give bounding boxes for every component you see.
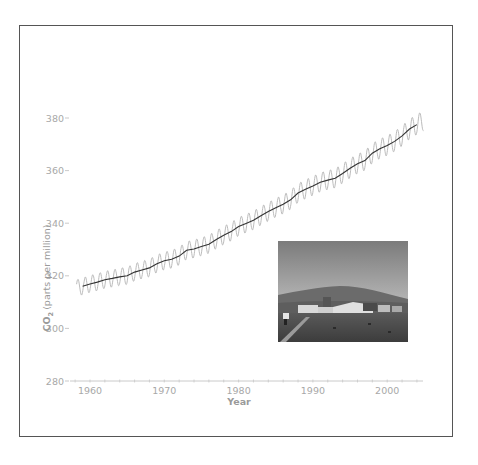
- x-tick-label: 1970: [152, 385, 176, 396]
- observatory-photo-image: [278, 241, 408, 342]
- mauna-loa-observatory-photo: [278, 241, 408, 342]
- x-axis: 19601970198019902000: [70, 380, 423, 397]
- x-tick-label: 1980: [227, 385, 251, 396]
- x-tick-label: 2000: [375, 385, 399, 396]
- y-tick-label: 380: [46, 113, 64, 124]
- y-tick-label: 360: [46, 165, 64, 176]
- co2-chart: 280300320340360380 19601970198019902000 …: [0, 0, 478, 465]
- x-axis-title: Year: [226, 396, 251, 407]
- x-tick-label: 1990: [301, 385, 325, 396]
- y-tick-label: 280: [46, 376, 64, 387]
- x-tick-label: 1960: [78, 385, 102, 396]
